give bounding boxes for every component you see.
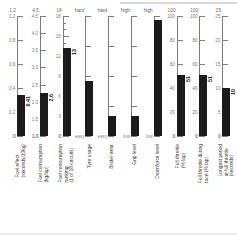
gauge-tick-label: 15 (215, 62, 220, 67)
gauge-tick-label: 4.5 (32, 14, 38, 19)
gauge-bar (222, 88, 230, 136)
gauge-tick (40, 50, 46, 51)
gauge-tick (177, 136, 183, 137)
gauge-tick (17, 40, 23, 41)
gauge-tick-label: 0.8 (9, 38, 15, 43)
gauge-top-label: 100 (190, 8, 199, 13)
gauge-tick (85, 136, 91, 137)
gauge-top-label: 100 (168, 8, 177, 13)
top-divider (120, 2, 237, 4)
gauge-top-label: hard (98, 8, 109, 13)
gauge-tick-label: 60 (170, 62, 175, 67)
gauge-tick-label: 2.0 (32, 99, 38, 104)
gauge-top-label: 18 (56, 8, 62, 13)
gauge-bar (17, 95, 25, 136)
gauge-bar (85, 81, 93, 136)
gauge-tick-label: 5 (218, 110, 221, 115)
gauge-tick (199, 40, 205, 41)
gauge-tick-label: 15 (56, 34, 61, 39)
gauge-tick (222, 40, 228, 41)
gauge-tick-label: 1.2 (9, 14, 15, 19)
gauge-top-label: 4.5 (32, 8, 40, 13)
gauge-bottom-label: easy (97, 134, 108, 139)
gauge-tick-label: 0.4 (9, 86, 15, 91)
gauge-tick-label: 20 (170, 110, 175, 115)
gauge-tick-label: 2.5 (32, 82, 38, 87)
gauge-tick-label: 3.5 (32, 48, 38, 53)
gauge-caption: Tyre usage (82, 144, 96, 232)
gauge-tick (154, 16, 160, 17)
gauge-top-label: hard (75, 8, 86, 13)
gauge-caption-text: Fuel consumption (kg/lap) (38, 144, 49, 183)
gauge-tick (108, 76, 114, 77)
gauge-tick-label: 40 (193, 86, 198, 91)
gauge-minor-tick (63, 23, 66, 24)
gauge-tick-label: 3 (58, 114, 61, 119)
gauge-tick-label: 20 (193, 110, 198, 115)
gauge-tick-label: 3.0 (32, 65, 38, 70)
gauge-tick (63, 36, 69, 37)
gauge-caption-text: Full throttle during race (% lap) (198, 144, 209, 183)
gauge-top-label: 25 (216, 8, 222, 13)
gauge-tick (131, 46, 137, 47)
gauge-tick-label: 0.2 (9, 110, 15, 115)
gauge-caption-text: Longest period at full throttle (seconds… (218, 144, 235, 176)
gauge-top-label: 1.2 (9, 8, 17, 13)
gauge-tick (154, 136, 160, 137)
gauge-tick (222, 64, 228, 65)
gauge-tick-label: 100 (190, 14, 198, 19)
gauge-tick (177, 40, 183, 41)
gauge-tick (108, 46, 114, 47)
gauge-tick (40, 33, 46, 34)
gauge-caption-text: Full throttle (% lap) (175, 144, 186, 168)
gauge-caption: Brake wear (105, 144, 119, 232)
gauge-tick (63, 16, 69, 17)
gauge-caption: Fuel consumption (kg/lap) (37, 144, 51, 232)
gauge-tick-label: 100 (167, 14, 175, 19)
gauge-tick-label: 12 (56, 54, 61, 59)
gauge-tick (17, 136, 23, 137)
gauge-fuel-consumption-revving: 181815129630013Fuel consumption ranking … (51, 8, 74, 234)
gauge-caption: Longest period at full throttle (seconds… (219, 144, 233, 232)
gauge-tick (131, 76, 137, 77)
gauge-minor-tick (63, 43, 66, 44)
gauge-tick-label: 6 (58, 94, 61, 99)
gauge-full-throttle: 100100806040200051Full throttle (% lap) (165, 8, 188, 234)
gauge-tick (17, 16, 23, 17)
gauge-tick-label: 60 (193, 62, 198, 67)
gauge-caption: Full throttle (% lap) (174, 144, 188, 232)
gauge-tick-label: 0.6 (9, 62, 15, 67)
gauge-caption: Full throttle during race (% lap) (196, 144, 210, 232)
gauge-bar (40, 93, 48, 136)
gauge-tick (222, 136, 228, 137)
gauge-tick (199, 136, 205, 137)
gauge-fuel-effect: 1.21.20.80.60.40.2000.41Fuel effect (sec… (5, 8, 28, 234)
gauge-caption-text: Fuel effect (seconds/10kg) (15, 144, 26, 177)
gauge-tick-label: 10 (215, 86, 220, 91)
gauge-tick (131, 136, 137, 137)
gauge-bar (154, 20, 162, 136)
gauge-caption: Fuel consumption ranking (1 of 18 circui… (60, 144, 74, 232)
gauge-tick (199, 64, 205, 65)
gauge-top-label: high (144, 8, 154, 13)
gauge-tick-label: 25 (215, 14, 220, 19)
gauge-tick (40, 16, 46, 17)
chart-root: 1.21.20.80.60.40.2000.41Fuel effect (sec… (0, 0, 237, 237)
gauge-caption-text: Downforce level (155, 144, 161, 179)
gauge-tick (108, 136, 114, 137)
gauge-caption: Fuel effect (seconds/10kg) (14, 144, 28, 232)
gauge-tick (40, 67, 46, 68)
gauge-bar (131, 116, 139, 136)
gauge-bar (63, 48, 71, 136)
gauge-tick-label: 18 (56, 14, 61, 19)
gauge-bottom-label: low (146, 134, 154, 139)
bottom-divider (0, 233, 237, 235)
gauge-bottom-label: 1.0 (32, 134, 39, 139)
gauge-tick (85, 16, 91, 17)
gauge-value-label: 10 (230, 89, 236, 95)
gauge-fuel-consumption: 4.54.54.03.53.02.52.01.51.01.02.6Fuel co… (28, 8, 51, 234)
gauge-caption-text: Tyre usage (87, 144, 93, 168)
gauge-caption-text: Grip level (132, 144, 138, 165)
gauge-caption: Downforce level (151, 144, 165, 232)
gauge-tick (131, 16, 137, 17)
